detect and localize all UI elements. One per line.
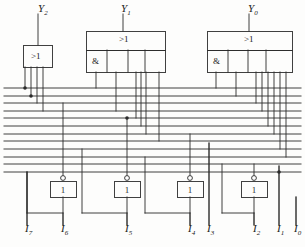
junction-dot-3 (277, 170, 281, 174)
input-label-I2: I2 (253, 222, 260, 237)
inv-i6-bubble (61, 176, 66, 181)
inv-i2-bubble (252, 176, 257, 181)
junction-dot-2 (125, 116, 129, 120)
input-label-I6: I6 (61, 222, 68, 237)
inv-i4-bubble (188, 176, 193, 181)
circuit-diagram: 1111 >1>1&>1&Y2Y1Y0I7I6I5I4I3I2I1I0 (0, 0, 305, 247)
input-label-I3: I3 (207, 222, 214, 237)
input-label-I5: I5 (125, 222, 132, 237)
input-label-I1: I1 (277, 222, 284, 237)
gate-symbol-and: & (92, 56, 99, 66)
inv-i2-symbol: 1 (252, 185, 257, 195)
inv-i6-symbol: 1 (61, 185, 66, 195)
gate-symbol-or: >1 (244, 34, 254, 44)
gate-symbol-and: & (213, 56, 220, 66)
output-label-Y2: Y2 (38, 2, 48, 17)
inv-i5-bubble (125, 176, 130, 181)
circuit-canvas: 1111 (0, 0, 305, 247)
output-label-Y0: Y0 (248, 2, 258, 17)
inv-i5-symbol: 1 (125, 185, 130, 195)
input-label-I7: I7 (25, 222, 32, 237)
gate-symbol-or: >1 (119, 34, 129, 44)
gate-symbol-or: >1 (31, 51, 41, 61)
junction-dot-0 (23, 86, 27, 90)
output-label-Y1: Y1 (121, 2, 131, 17)
input-label-I0: I0 (294, 222, 301, 237)
junction-dot-1 (29, 94, 33, 98)
input-label-I4: I4 (188, 222, 195, 237)
inv-i4-symbol: 1 (188, 185, 193, 195)
